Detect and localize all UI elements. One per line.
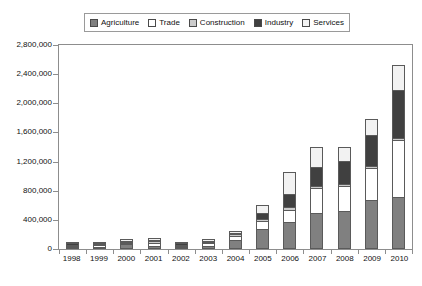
bar-segment <box>365 168 378 200</box>
legend-swatch-industry <box>254 19 262 27</box>
bar-segment <box>229 240 242 249</box>
x-axis-tick-label: 1999 <box>85 254 112 268</box>
bar-segment <box>338 147 351 161</box>
x-axis-tick-label: 2010 <box>386 254 413 268</box>
y-axis-tick-label: 1,200,000 <box>16 158 52 166</box>
legend-label-agriculture: Agriculture <box>101 18 139 27</box>
bar-segment <box>338 186 351 212</box>
bar-segment <box>148 246 161 249</box>
chart-legend: Agriculture Trade Construction Industry … <box>84 13 350 32</box>
bar-segment <box>256 205 269 213</box>
bar-segment <box>283 172 296 194</box>
bar-stack <box>120 239 133 249</box>
y-axis-tick-label: 800,000 <box>23 187 52 195</box>
legend-swatch-agriculture <box>90 19 98 27</box>
bar-segment <box>175 247 188 249</box>
bar-segment <box>283 210 296 222</box>
x-axis-tick-mark <box>276 250 277 254</box>
x-axis-tick-mark <box>195 250 196 254</box>
x-axis: 1998199920002001200220032004200520062007… <box>58 254 413 268</box>
bar-stack <box>338 147 351 249</box>
bar-stack <box>148 238 161 250</box>
x-axis-tick-mark <box>168 250 169 254</box>
x-axis-tick-label: 2009 <box>358 254 385 268</box>
y-axis-tick-label: 400,000 <box>23 216 52 224</box>
bar-segment <box>392 65 405 91</box>
bar-segment <box>66 247 79 249</box>
bar-segment <box>283 194 296 208</box>
bar-segment <box>310 167 323 186</box>
bar-stack <box>229 231 242 249</box>
x-axis-tick-label: 2005 <box>249 254 276 268</box>
bar-stack <box>283 172 296 249</box>
bar-segment <box>365 135 378 166</box>
y-axis-tick-label: 1,600,000 <box>16 128 52 136</box>
x-axis-tick-label: 2006 <box>277 254 304 268</box>
bar-segment <box>338 211 351 249</box>
bar-stack <box>175 242 188 249</box>
x-axis-tick-label: 2004 <box>222 254 249 268</box>
x-axis-tick-mark <box>113 250 114 254</box>
bar-segment <box>392 197 405 249</box>
x-axis-tick-label: 2008 <box>331 254 358 268</box>
x-axis-tick-mark <box>140 250 141 254</box>
x-axis-tick-mark <box>249 250 250 254</box>
bar-stack <box>310 147 323 249</box>
legend-label-services: Services <box>313 18 344 27</box>
x-axis-tick-mark <box>331 250 332 254</box>
bar-segment <box>365 119 378 135</box>
legend-label-trade: Trade <box>159 18 180 27</box>
x-axis-tick-mark <box>412 250 413 254</box>
legend-entry-industry: Industry <box>254 18 293 27</box>
legend-entry-services: Services <box>302 18 344 27</box>
bar-segment <box>338 161 351 184</box>
bar-segment <box>120 244 133 249</box>
legend-entry-agriculture: Agriculture <box>90 18 139 27</box>
bar-segment <box>93 247 106 249</box>
bar-segment <box>310 147 323 167</box>
bar-segment <box>256 229 269 249</box>
bar-stack <box>66 242 79 249</box>
bar-stack <box>93 242 106 249</box>
x-axis-tick-mark <box>86 250 87 254</box>
y-axis-tick-label: 0 <box>48 245 52 253</box>
legend-label-industry: Industry <box>265 18 293 27</box>
bar-stack <box>365 119 378 249</box>
legend-swatch-services <box>302 19 310 27</box>
bars-layer <box>59 45 412 249</box>
bar-stack <box>202 239 215 249</box>
x-axis-tick-label: 2002 <box>167 254 194 268</box>
x-axis-tick-mark <box>358 250 359 254</box>
legend-entry-trade: Trade <box>148 18 180 27</box>
bar-segment <box>283 222 296 249</box>
bar-segment <box>310 213 323 249</box>
y-axis-tick-label: 2,000,000 <box>16 99 52 107</box>
x-axis-tick-label: 2000 <box>113 254 140 268</box>
y-axis: 0400,000800,0001,200,0001,600,0002,000,0… <box>0 44 52 250</box>
bar-segment <box>392 140 405 197</box>
x-axis-tick-mark <box>303 250 304 254</box>
legend-swatch-construction <box>189 19 197 27</box>
bar-segment <box>202 246 215 249</box>
x-axis-tick-label: 2003 <box>195 254 222 268</box>
bar-segment <box>256 221 269 229</box>
x-axis-tick-label: 2007 <box>304 254 331 268</box>
bar-segment <box>365 200 378 249</box>
x-axis-tick-label: 1998 <box>58 254 85 268</box>
x-axis-tick-mark <box>385 250 386 254</box>
x-axis-tick-mark <box>222 250 223 254</box>
y-axis-tick-label: 2,400,000 <box>16 70 52 78</box>
bar-stack <box>392 65 405 249</box>
legend-swatch-trade <box>148 19 156 27</box>
x-axis-tick-label: 2001 <box>140 254 167 268</box>
x-axis-tick-mark <box>59 250 60 254</box>
y-axis-tick-label: 2,800,000 <box>16 41 52 49</box>
bar-segment <box>392 90 405 138</box>
bar-stack <box>256 205 269 249</box>
legend-entry-construction: Construction <box>189 18 245 27</box>
bar-segment <box>310 188 323 213</box>
legend-label-construction: Construction <box>200 18 245 27</box>
